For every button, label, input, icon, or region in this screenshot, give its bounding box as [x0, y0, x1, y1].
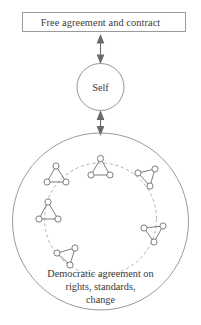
connector-self-to-community: [97, 110, 105, 136]
cluster-top-node-2: [88, 172, 94, 178]
cluster-lower-right-node-1: [141, 225, 147, 231]
cluster-upper-left-node-2: [44, 179, 50, 185]
cluster-right-node-3: [147, 183, 153, 189]
cluster-bottom-left-node-2: [54, 250, 60, 256]
cluster-left-node-3: [55, 216, 61, 222]
cluster-bottom-left-node-1: [72, 245, 78, 251]
self-label: Self: [92, 82, 109, 93]
cluster-top-node-3: [107, 172, 113, 178]
bottom-caption-line-2: rights, standards,: [65, 281, 135, 292]
cluster-right-node-1: [152, 166, 158, 172]
cluster-left[interactable]: [36, 199, 61, 222]
cluster-upper-left-node-3: [63, 179, 69, 185]
bottom-caption-line-1: Democratic agreement on: [47, 268, 153, 279]
bottom-caption-line-3: change: [86, 294, 116, 305]
cluster-left-node-2: [36, 216, 42, 222]
cluster-upper-left[interactable]: [44, 163, 69, 185]
arrow-head-down-2: [97, 126, 105, 136]
arrow-head-down: [97, 55, 105, 65]
cluster-lower-right-node-3: [151, 239, 157, 245]
cluster-top-node-1: [97, 155, 103, 161]
diagram-svg: Free agreement and contract Self Democra…: [0, 0, 201, 325]
cluster-upper-left-node-1: [53, 163, 59, 169]
arrow-head-up: [97, 34, 105, 44]
cluster-top[interactable]: [88, 155, 113, 178]
diagram-canvas: Free agreement and contract Self Democra…: [0, 0, 201, 325]
cluster-right[interactable]: [135, 166, 158, 189]
cluster-right-node-2: [135, 170, 141, 176]
arrow-head-up-2: [97, 110, 105, 120]
free-agreement-label: Free agreement and contract: [41, 17, 161, 28]
cluster-lower-right[interactable]: [141, 223, 166, 245]
cluster-lower-right-node-2: [160, 223, 166, 229]
cluster-left-node-1: [45, 199, 51, 205]
connector-self-to-contract: [97, 34, 105, 64]
cluster-bottom-left[interactable]: [54, 245, 78, 268]
